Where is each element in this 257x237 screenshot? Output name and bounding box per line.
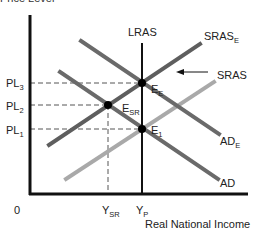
point-e-e: [138, 79, 146, 87]
pl2-label: PL2: [6, 100, 24, 115]
pl3-label: PL3: [6, 77, 24, 92]
ad-e-curve: [81, 41, 219, 134]
point-e-1: [138, 125, 146, 133]
yp-label: YP: [136, 204, 148, 219]
ysr-label: YSR: [102, 204, 120, 219]
ad-e-label: ADE: [220, 135, 240, 150]
lras-label: LRAS: [128, 26, 157, 38]
ad-label: AD: [220, 177, 235, 189]
sras-label: SRAS: [217, 69, 247, 81]
origin-label: 0: [14, 204, 20, 216]
pl1-label: PL1: [6, 124, 24, 139]
ad-curve: [60, 72, 218, 179]
e-e-label: EE: [151, 83, 163, 98]
x-axis-label: Real National Income: [145, 218, 250, 230]
left-arrow-icon: [176, 69, 208, 75]
economics-diagram: LRAS SRASE SRAS ADE AD EE ESR E1 PL3 PL2…: [0, 0, 257, 237]
point-e-sr: [104, 101, 112, 109]
sras-e-label: SRASE: [204, 30, 239, 45]
sras-e-curve: [49, 44, 200, 145]
